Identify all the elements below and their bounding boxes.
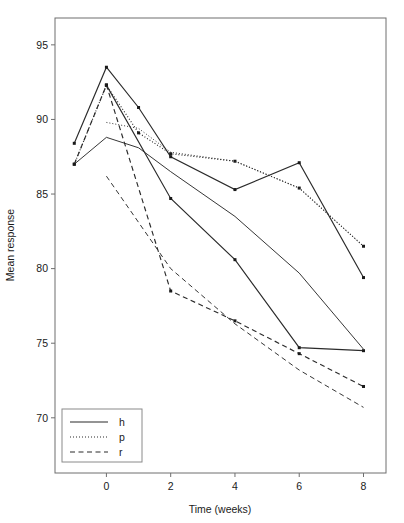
data-point-marker	[298, 161, 301, 164]
data-point-marker	[233, 188, 236, 191]
y-tick-label: 95	[36, 39, 48, 51]
data-point-marker	[73, 142, 76, 145]
x-tick-label: 6	[296, 480, 302, 492]
data-point-marker	[73, 163, 76, 166]
x-axis-title: Time (weeks)	[189, 503, 252, 515]
chart-background	[0, 0, 404, 523]
y-axis-title: Mean response	[4, 209, 16, 282]
data-point-marker	[137, 106, 140, 109]
data-point-marker	[298, 352, 301, 355]
legend-label-h[interactable]: h	[119, 416, 125, 428]
data-point-marker	[169, 155, 172, 158]
data-point-marker	[105, 66, 108, 69]
mean-response-line-chart: 707580859095 02468 hpr Time (weeks) Mean…	[0, 0, 404, 523]
y-tick-label: 75	[36, 337, 48, 349]
x-tick-label: 0	[103, 480, 109, 492]
data-point-marker	[362, 385, 365, 388]
y-tick-label: 70	[36, 412, 48, 424]
x-tick-label: 4	[232, 480, 238, 492]
data-point-marker	[362, 245, 365, 248]
data-point-marker	[233, 258, 236, 261]
data-point-marker	[298, 346, 301, 349]
data-point-marker	[233, 319, 236, 322]
chart-container: 707580859095 02468 hpr Time (weeks) Mean…	[0, 0, 404, 523]
data-point-marker	[169, 197, 172, 200]
data-point-marker	[362, 349, 365, 352]
data-point-marker	[137, 131, 140, 134]
data-point-marker	[105, 84, 108, 87]
y-tick-label: 80	[36, 262, 48, 274]
y-tick-label: 90	[36, 113, 48, 125]
x-tick-label: 8	[361, 480, 367, 492]
x-tick-label: 2	[168, 480, 174, 492]
legend-box	[62, 409, 142, 462]
legend-label-p[interactable]: p	[119, 431, 125, 443]
legend-label-r[interactable]: r	[119, 446, 123, 458]
data-point-marker	[169, 290, 172, 293]
data-point-marker	[362, 276, 365, 279]
chart-legend[interactable]: hpr	[62, 409, 142, 462]
y-tick-label: 85	[36, 188, 48, 200]
